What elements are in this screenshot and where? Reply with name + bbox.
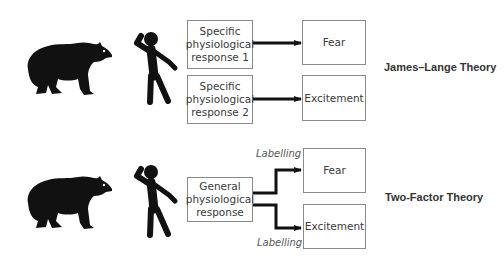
excitement-box: Excitement xyxy=(303,204,366,249)
specific-response-1-label: Specific physiological response 1 xyxy=(186,25,254,64)
excitement-box: Excitement xyxy=(302,75,366,121)
excitement-label: Excitement xyxy=(304,92,363,105)
specific-response-2-box: Specific physiological response 2 xyxy=(187,75,253,124)
startled-person-icon xyxy=(137,32,175,102)
labelling-label-top: Labelling xyxy=(256,148,301,159)
arrow-general-to-excitement xyxy=(252,205,301,228)
james-lange-title: James–Lange Theory xyxy=(384,61,497,73)
labelling-label-bottom: Labelling xyxy=(257,237,302,248)
fear-box: Fear xyxy=(302,20,366,65)
arrow-general-to-fear xyxy=(252,170,301,193)
general-response-label: General physiological response xyxy=(186,180,254,219)
two-factor-title: Two-Factor Theory xyxy=(385,191,483,203)
bear-icon xyxy=(28,176,112,229)
fear-label: Fear xyxy=(323,164,346,177)
excitement-label: Excitement xyxy=(305,220,364,233)
specific-response-1-box: Specific physiological response 1 xyxy=(187,20,253,69)
general-response-box: General physiological response xyxy=(187,177,253,222)
fear-box: Fear xyxy=(303,148,366,193)
bear-icon xyxy=(28,42,112,95)
startled-person-icon xyxy=(137,165,175,235)
specific-response-2-label: Specific physiological response 2 xyxy=(186,80,254,119)
fear-label: Fear xyxy=(323,36,346,49)
